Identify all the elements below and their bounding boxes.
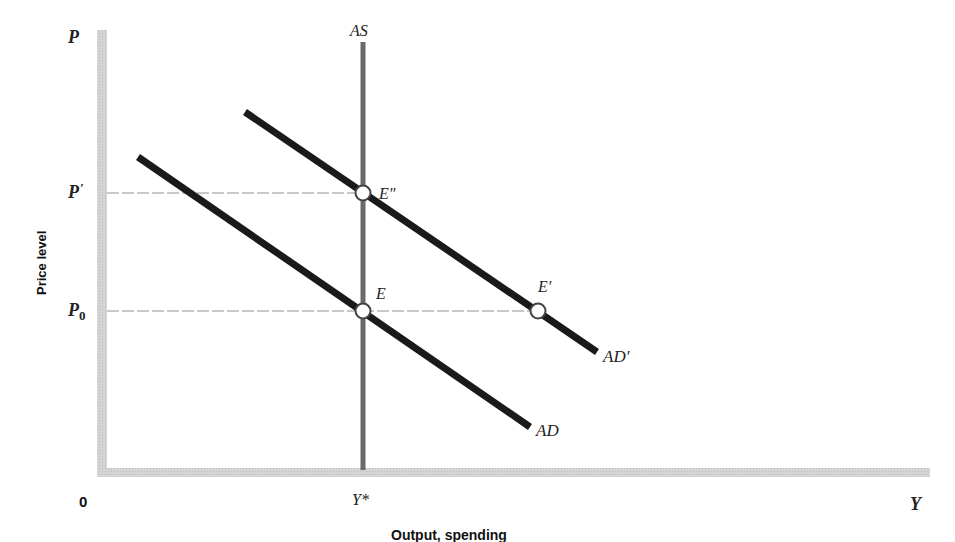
label-as: AS: [349, 22, 368, 39]
y-axis: [97, 30, 107, 477]
x-axis: [97, 468, 930, 477]
point-e: [356, 304, 371, 319]
point-e-double-prime: [356, 186, 371, 201]
y-axis-symbol: P: [67, 27, 80, 47]
label-ad-prime: AD′: [602, 347, 630, 366]
point-e-prime: [531, 304, 546, 319]
x-axis-title: Output, spending: [391, 527, 507, 542]
tick-y-star: Y*: [352, 491, 369, 508]
label-e: E: [375, 285, 386, 302]
x-axis-symbol: Y: [910, 494, 923, 514]
tick-p-prime: P′: [67, 180, 84, 202]
tick-p-zero: P0: [67, 300, 86, 323]
label-e-prime: E′: [537, 278, 552, 295]
label-e-double-prime: E″: [378, 185, 396, 202]
origin-label: 0: [79, 493, 87, 510]
label-ad: AD: [535, 421, 559, 440]
ad-as-chart: P Y 0 P′ P0 Y* Price level Output, spend…: [0, 0, 955, 542]
y-axis-title: Price level: [34, 231, 49, 295]
ad-curve: [138, 157, 530, 427]
